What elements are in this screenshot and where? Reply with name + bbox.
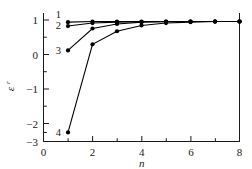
y-axis-title: ε (4, 86, 16, 91)
x-tick-label-3: 6 (188, 146, 194, 158)
series-layer (66, 19, 242, 134)
data-point (90, 42, 94, 46)
data-point (66, 24, 70, 28)
curve-label-3: 3 (56, 45, 61, 56)
data-point (90, 21, 94, 25)
x-tick-label-4: 8 (237, 146, 243, 158)
y-tick-label-1: 0 (33, 49, 39, 61)
data-point (66, 130, 70, 134)
data-point (164, 21, 168, 25)
y-tick-label-4: −3 (26, 136, 38, 148)
data-point (188, 20, 192, 24)
y-tick-label-0: 1 (33, 14, 39, 26)
convergence-plot: 1 0 −1 −2 −3 0 2 4 6 8 n ε r 1234 (0, 0, 252, 169)
data-point (237, 19, 241, 23)
y-axis-title-superscript: r (4, 81, 12, 84)
curve-label-layer: 1234 (56, 9, 62, 138)
axes-frame (44, 13, 241, 142)
data-point (213, 19, 217, 23)
x-tick-label-0: 0 (41, 146, 47, 158)
x-tick-label-1: 2 (90, 146, 96, 158)
y-tick-label-2: −1 (26, 83, 38, 95)
data-point (90, 26, 94, 30)
x-axis-title: n (139, 157, 145, 169)
data-point (139, 23, 143, 27)
x-axis-major-ticks (44, 136, 240, 142)
y-tick-labels: 1 0 −1 −2 −3 (26, 14, 38, 148)
y-tick-label-3: −2 (26, 118, 38, 130)
data-point (66, 48, 70, 52)
data-point (66, 20, 70, 24)
chart-figure: 1 0 −1 −2 −3 0 2 4 6 8 n ε r 1234 (0, 0, 252, 169)
curve-label-1: 1 (56, 9, 61, 20)
data-point (115, 29, 119, 33)
data-point (115, 22, 119, 26)
y-axis-title-group: ε r (4, 81, 16, 91)
series-line-3 (68, 22, 240, 51)
series-line-4 (68, 22, 240, 133)
curve-label-4: 4 (56, 127, 62, 138)
y-axis-major-ticks (44, 20, 50, 142)
curve-label-2: 2 (56, 20, 61, 31)
